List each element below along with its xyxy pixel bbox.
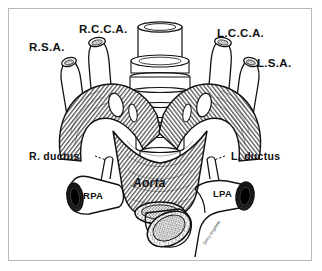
label-rpa: RPA [83, 190, 103, 201]
r-ductus-leader [95, 156, 106, 160]
label-aorta: Aorta [132, 176, 166, 190]
label-rcca: R.C.C.A. [79, 23, 127, 35]
label-rsa: R.S.A. [29, 41, 65, 53]
label-l-ductus: L. ductus [231, 150, 280, 162]
label-lcca: L.C.C.A. [217, 27, 264, 39]
right-ductus-arteriosus [101, 157, 113, 181]
label-lpa: LPA [213, 188, 232, 199]
artist-signature: Gerry Angeletti [202, 220, 222, 246]
label-r-ductus: R. ductus [29, 150, 80, 162]
anatomical-illustration: R.S.A. R.C.C.A. L.C.C.A. L.S.A. R. ductu… [9, 9, 311, 260]
l-ductus-leader [214, 156, 225, 160]
label-lsa: L.S.A. [257, 57, 291, 69]
figure-frame: R.S.A. R.C.C.A. L.C.C.A. L.S.A. R. ductu… [8, 8, 312, 261]
left-ductus-arteriosus [207, 157, 219, 181]
